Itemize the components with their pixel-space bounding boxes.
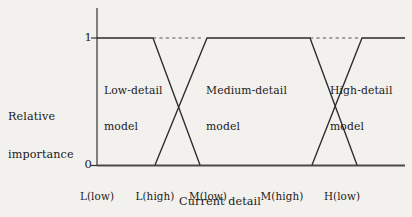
x-tick-label-2: M(low) L(end) — [177, 168, 239, 217]
x-tick-label-0: L(low) L(start) — [66, 168, 128, 217]
x-axis-label: Current detail — [155, 196, 285, 209]
annotation-high-detail-model: High-detail model — [330, 61, 392, 158]
x-tick-label-4: H(low) M(end) — [311, 168, 373, 217]
annotation-high-detail-line2: model — [330, 121, 392, 133]
y-tick-label-1: 1 — [78, 31, 92, 44]
annotation-medium-detail-line2: model — [206, 121, 287, 133]
annotation-high-detail-line1: High-detail — [330, 85, 392, 97]
x-tick-label-4-line1: H(low) — [311, 191, 373, 203]
annotation-low-detail-line1: Low-detail — [104, 85, 163, 97]
figure-container: Relative importance 1 0 Low-detail model… — [0, 0, 412, 217]
y-axis-label-line1: Relative — [8, 111, 92, 124]
annotation-low-detail-model: Low-detail model — [104, 61, 163, 158]
annotation-medium-detail-line1: Medium-detail — [206, 85, 287, 97]
annotation-low-detail-line2: model — [104, 121, 163, 133]
x-tick-label-3: M(high) H(start) — [251, 168, 313, 217]
annotation-medium-detail-model: Medium-detail model — [206, 61, 287, 158]
x-tick-label-0-line1: L(low) — [66, 191, 128, 203]
